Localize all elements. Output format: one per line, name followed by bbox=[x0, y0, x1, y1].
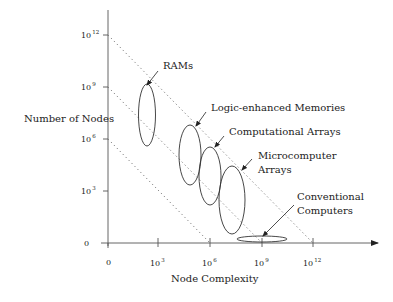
region-logic-enhanced-memories bbox=[179, 125, 201, 185]
y-tick-label-0: 0 bbox=[84, 239, 89, 248]
region-computational-arrays bbox=[199, 147, 221, 205]
x-axis-title: Node Complexity bbox=[171, 273, 259, 284]
y-axis bbox=[103, 10, 108, 246]
arrow-computational-arrays bbox=[215, 136, 224, 147]
y-tick-label-12: 1012 bbox=[81, 29, 99, 40]
x-tick-label-6: 106 bbox=[202, 257, 217, 268]
label-microcomputer: Microcomputer bbox=[258, 150, 337, 161]
x-tick-label-0: 0 bbox=[106, 258, 111, 267]
arrow-rams bbox=[147, 71, 158, 85]
label-computational-arrays: Computational Arrays bbox=[229, 126, 341, 137]
x-axis bbox=[101, 238, 378, 248]
diagram-canvas: RAMs Logic-enhanced Memories Computation… bbox=[0, 0, 393, 302]
y-tick-label-6: 106 bbox=[81, 133, 96, 144]
region-rams bbox=[139, 84, 156, 146]
arrow-microcomputer-arrays bbox=[242, 159, 252, 170]
y-tick-label-3: 103 bbox=[81, 185, 96, 196]
y-axis-title: Number of Nodes bbox=[24, 113, 114, 124]
arrow-conventional-computers bbox=[263, 205, 294, 236]
y-tick-label-9: 109 bbox=[81, 81, 96, 92]
label-conventional: Conventional bbox=[297, 191, 364, 202]
label-computers: Computers bbox=[297, 205, 353, 216]
iso-line-1e6 bbox=[108, 139, 210, 243]
label-logic-enhanced-memories: Logic-enhanced Memories bbox=[211, 102, 345, 113]
x-tick-label-3: 103 bbox=[150, 257, 165, 268]
iso-line-1e12 bbox=[108, 35, 313, 243]
x-tick-label-12: 1012 bbox=[303, 257, 321, 268]
label-arrays: Arrays bbox=[257, 164, 292, 175]
iso-lines bbox=[108, 35, 313, 243]
label-rams: RAMs bbox=[163, 60, 193, 71]
arrow-logic-enhanced-memories bbox=[196, 112, 206, 126]
x-tick-label-9: 109 bbox=[254, 257, 269, 268]
region-microcomputer-arrays bbox=[219, 166, 245, 234]
